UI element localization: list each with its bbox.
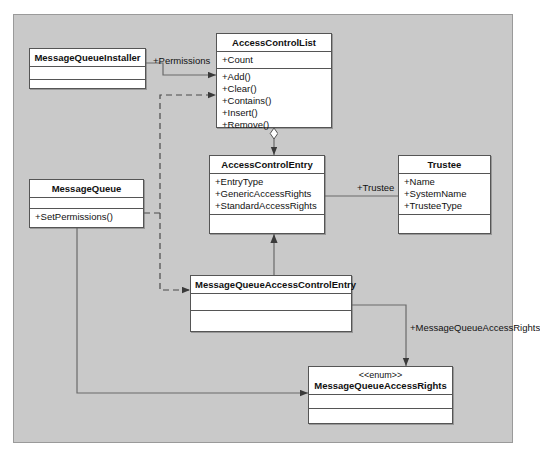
attributes-compartment: +EntryType +GenericAccessRights +Standar… — [210, 174, 324, 215]
attributes-compartment — [30, 67, 145, 80]
attribute-item: +StandardAccessRights — [215, 200, 320, 212]
class-name-message-queue-access-control-entry: MessageQueueAccessControlEntry — [191, 276, 351, 294]
class-box-access-control-list[interactable]: AccessControlList +Count +Add() +Clear()… — [216, 33, 332, 128]
method-item: +Clear() — [222, 83, 327, 95]
class-name-trustee: Trustee — [399, 156, 490, 174]
attribute-item: +Count — [222, 54, 327, 66]
class-box-message-queue-installer[interactable]: MessageQueueInstaller — [29, 48, 146, 89]
class-name-access-control-entry: AccessControlEntry — [210, 156, 324, 174]
methods-compartment — [30, 80, 145, 93]
class-box-message-queue-access-control-entry[interactable]: MessageQueueAccessControlEntry — [190, 275, 352, 332]
class-name-message-queue-access-rights: <<enum>> MessageQueueAccessRights — [309, 367, 452, 395]
method-item: +Contains() — [222, 95, 327, 107]
methods-compartment: +Add() +Clear() +Contains() +Insert() +R… — [217, 69, 331, 133]
methods-compartment — [191, 311, 351, 331]
class-box-message-queue[interactable]: MessageQueue +SetPermissions() — [29, 179, 144, 228]
class-name-access-control-list: AccessControlList — [217, 34, 331, 52]
method-item: +Insert() — [222, 107, 327, 119]
class-name-message-queue-installer: MessageQueueInstaller — [30, 49, 145, 67]
attributes-compartment — [30, 198, 143, 209]
attribute-item: +TrusteeType — [404, 200, 486, 212]
attributes-compartment — [191, 294, 351, 311]
method-item: +SetPermissions() — [35, 211, 139, 223]
edge-label-access-rights: +MessageQueueAccessRights — [410, 322, 540, 333]
class-name-message-queue: MessageQueue — [30, 180, 143, 198]
attributes-compartment: +Name +SystemName +TrusteeType — [399, 174, 490, 215]
stereotype-enum: <<enum>> — [313, 370, 448, 380]
method-item: +Remove() — [222, 119, 327, 131]
methods-compartment — [399, 215, 490, 229]
class-box-message-queue-access-rights[interactable]: <<enum>> MessageQueueAccessRights — [308, 366, 453, 424]
class-box-access-control-entry[interactable]: AccessControlEntry +EntryType +GenericAc… — [209, 155, 325, 234]
attributes-compartment: +Count — [217, 52, 331, 69]
attribute-item: +GenericAccessRights — [215, 188, 320, 200]
attribute-item: +SystemName — [404, 188, 486, 200]
class-box-trustee[interactable]: Trustee +Name +SystemName +TrusteeType — [398, 155, 491, 234]
edge-label-trustee: +Trustee — [357, 182, 394, 193]
attributes-compartment — [309, 395, 452, 409]
methods-compartment — [309, 409, 452, 427]
methods-compartment: +SetPermissions() — [30, 209, 143, 225]
attribute-item: +EntryType — [215, 176, 320, 188]
attribute-item: +Name — [404, 176, 486, 188]
edge-label-permissions: +Permissions — [153, 55, 210, 66]
method-item: +Add() — [222, 71, 327, 83]
enum-name: MessageQueueAccessRights — [314, 380, 447, 391]
methods-compartment — [210, 215, 324, 229]
